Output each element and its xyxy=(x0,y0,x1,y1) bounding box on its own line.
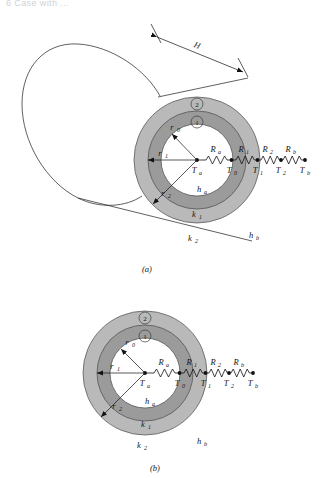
svg-text:0: 0 xyxy=(182,383,185,389)
svg-text:b: b xyxy=(204,441,207,447)
svg-text:k: k xyxy=(137,440,141,450)
node-label-t2-a: T 2 xyxy=(276,165,286,176)
svg-text:h: h xyxy=(197,184,201,194)
svg-text:1: 1 xyxy=(143,333,147,341)
svg-text:R: R xyxy=(157,357,164,367)
svg-text:a: a xyxy=(147,383,150,389)
figure-a-caption: (a) xyxy=(142,264,152,274)
svg-text:a: a xyxy=(199,170,202,176)
resistor-label-r2-a: R 2 xyxy=(261,144,273,155)
svg-text:a: a xyxy=(152,401,155,407)
svg-text:k: k xyxy=(192,209,196,219)
resistor-label-rb-b: R b xyxy=(232,357,244,368)
svg-text:0: 0 xyxy=(132,342,135,348)
svg-text:T: T xyxy=(224,378,230,388)
svg-text:a: a xyxy=(204,189,207,195)
svg-text:k: k xyxy=(188,233,192,243)
figure-page: 6 Case with ... H xyxy=(0,0,322,478)
material-label-k2-b: k 2 xyxy=(137,440,147,451)
svg-text:0: 0 xyxy=(234,170,237,176)
svg-text:2: 2 xyxy=(270,149,273,155)
resistor-label-rb-a: R b xyxy=(284,144,296,155)
svg-text:2: 2 xyxy=(195,101,199,109)
svg-text:2: 2 xyxy=(283,170,286,176)
svg-text:1: 1 xyxy=(195,119,199,127)
thermal-resistance-figure: H 2 1 r 0 xyxy=(0,0,322,478)
node-label-t2-b: T 2 xyxy=(224,378,234,389)
svg-text:1: 1 xyxy=(194,362,197,368)
svg-text:T: T xyxy=(248,378,254,388)
svg-text:h: h xyxy=(197,436,201,446)
material-label-hb-b: h b xyxy=(197,436,207,447)
svg-text:R: R xyxy=(185,357,192,367)
svg-text:R: R xyxy=(237,144,244,154)
svg-text:1: 1 xyxy=(260,170,263,176)
svg-text:R: R xyxy=(209,144,216,154)
material-label-k2-a: k 2 xyxy=(188,233,198,244)
svg-text:2: 2 xyxy=(143,315,147,323)
svg-text:1: 1 xyxy=(148,424,151,430)
figure-b-caption: (b) xyxy=(150,463,160,473)
svg-text:T: T xyxy=(300,165,306,175)
figure-a-group: H 2 1 r 0 xyxy=(22,24,310,274)
svg-text:b: b xyxy=(256,235,259,241)
dimension-label-h: H xyxy=(191,39,202,51)
svg-text:b: b xyxy=(241,362,244,368)
svg-text:b: b xyxy=(293,149,296,155)
svg-text:2: 2 xyxy=(195,238,198,244)
svg-text:a: a xyxy=(166,362,169,368)
svg-text:R: R xyxy=(232,357,239,367)
svg-text:1: 1 xyxy=(199,214,202,220)
svg-text:0: 0 xyxy=(177,127,180,133)
material-label-hb-a: h b xyxy=(249,230,259,241)
svg-text:a: a xyxy=(218,149,221,155)
node-label-tb-b: T b xyxy=(248,378,258,389)
svg-text:b: b xyxy=(255,383,258,389)
svg-text:b: b xyxy=(307,170,310,176)
svg-text:h: h xyxy=(145,396,149,406)
svg-text:2: 2 xyxy=(168,193,171,199)
svg-text:T: T xyxy=(276,165,282,175)
svg-text:1: 1 xyxy=(246,149,249,155)
svg-text:2: 2 xyxy=(231,383,234,389)
svg-text:R: R xyxy=(209,357,216,367)
svg-text:1: 1 xyxy=(117,366,120,372)
svg-text:2: 2 xyxy=(218,362,221,368)
svg-text:2: 2 xyxy=(144,445,147,451)
svg-text:R: R xyxy=(261,144,268,154)
svg-text:h: h xyxy=(249,230,253,240)
length-dimension-h: H xyxy=(151,24,248,77)
node-label-tb-a: T b xyxy=(300,165,310,176)
svg-text:2: 2 xyxy=(119,406,122,412)
svg-text:R: R xyxy=(284,144,291,154)
svg-text:1: 1 xyxy=(165,153,168,159)
figure-b-group: 2 1 r 0 r 1 r 2 xyxy=(83,311,258,473)
svg-text:1: 1 xyxy=(208,383,211,389)
svg-text:k: k xyxy=(141,419,145,429)
resistor-label-r2-b: R 2 xyxy=(209,357,221,368)
